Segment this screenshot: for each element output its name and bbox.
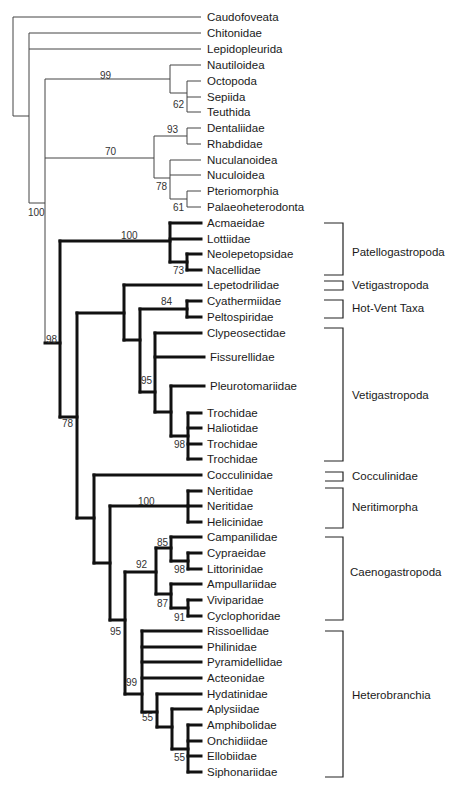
taxon-label: Octopoda bbox=[207, 75, 257, 87]
taxon-label: Philinidae bbox=[207, 641, 257, 653]
taxon-label: Peltospiridae bbox=[207, 311, 273, 323]
group-brackets bbox=[324, 223, 343, 777]
support-value: 95 bbox=[141, 375, 153, 386]
taxon-label: Cocculinidae bbox=[207, 469, 273, 481]
support-value: 100 bbox=[121, 230, 138, 241]
support-value: 98 bbox=[46, 334, 58, 345]
taxon-label: Rhabdidae bbox=[207, 138, 263, 150]
taxon-label: Amphibolidae bbox=[207, 719, 277, 731]
group-label-heterobranchia: Heterobranchia bbox=[352, 689, 431, 701]
taxon-label: Chitonidae bbox=[207, 27, 262, 39]
support-value: 93 bbox=[167, 124, 179, 135]
taxon-label: Pleurotomariidae bbox=[210, 380, 297, 392]
taxon-label: Pyramidellidae bbox=[207, 656, 282, 668]
taxon-label: Campanilidae bbox=[207, 531, 277, 543]
support-value: 78 bbox=[62, 418, 74, 429]
taxon-label: Caudofoveata bbox=[207, 11, 279, 23]
taxon-label: Nacellidae bbox=[207, 264, 261, 276]
support-value: 99 bbox=[126, 677, 138, 688]
taxon-label: Helicinidae bbox=[207, 516, 263, 528]
group-label-neritimorpha: Neritimorpha bbox=[352, 501, 418, 513]
taxon-label: Littorinidae bbox=[207, 563, 263, 575]
support-value: 99 bbox=[100, 70, 112, 81]
support-value: 91 bbox=[174, 612, 186, 623]
support-value: 55 bbox=[142, 712, 154, 723]
support-values: 99 62 93 70 78 61 100 100 73 98 84 95 78… bbox=[28, 70, 186, 763]
support-value: 98 bbox=[174, 439, 186, 450]
phylogenetic-tree: Caudofoveata Chitonidae Lepidopleurida N… bbox=[0, 0, 451, 791]
taxon-label: Nuculanoidea bbox=[207, 154, 278, 166]
taxon-label: Rissoellidae bbox=[207, 625, 269, 637]
taxon-label: Hydatinidae bbox=[207, 688, 268, 700]
taxon-label: Haliotidae bbox=[207, 422, 258, 434]
support-value: 98 bbox=[174, 564, 186, 575]
taxon-label: Acmaeidae bbox=[207, 217, 265, 229]
group-label-patellogastropoda: Patellogastropoda bbox=[352, 246, 445, 258]
group-label-cocculinidae: Cocculinidae bbox=[352, 470, 418, 482]
taxon-label: Neritidae bbox=[207, 500, 253, 512]
taxon-label: Onchidiidae bbox=[207, 735, 268, 747]
taxon-label: Palaeoheterodonta bbox=[207, 201, 305, 213]
taxon-label: Pteriomorphia bbox=[207, 185, 279, 197]
taxon-label: Lepetodrilidae bbox=[207, 279, 279, 291]
support-value: 87 bbox=[157, 598, 169, 609]
support-value: 78 bbox=[156, 181, 168, 192]
taxon-label: Ellobiidae bbox=[207, 750, 257, 762]
taxon-label: Neolepetopsidae bbox=[207, 248, 293, 260]
support-value: 92 bbox=[136, 559, 148, 570]
support-value: 85 bbox=[157, 537, 169, 548]
group-labels: Patellogastropoda Vetigastropoda Hot-Ven… bbox=[350, 246, 445, 701]
gastropod-branches bbox=[45, 223, 204, 772]
support-value: 84 bbox=[161, 296, 173, 307]
support-value: 100 bbox=[138, 496, 155, 507]
taxon-label: Trochidae bbox=[207, 453, 258, 465]
taxon-label: Acteonidae bbox=[207, 672, 265, 684]
taxon-label: Lepidopleurida bbox=[207, 43, 283, 55]
taxon-label: Sepiida bbox=[207, 91, 246, 103]
support-value: 55 bbox=[174, 752, 186, 763]
taxon-label: Cyathermiidae bbox=[207, 295, 281, 307]
taxon-label: Cypraeidae bbox=[207, 547, 266, 559]
taxon-label: Ampullariidae bbox=[207, 578, 277, 590]
group-label-vetigastropoda: Vetigastropoda bbox=[352, 389, 429, 401]
outgroup-branches bbox=[13, 17, 201, 343]
taxon-labels: Caudofoveata Chitonidae Lepidopleurida N… bbox=[207, 11, 305, 778]
support-value: 95 bbox=[110, 626, 122, 637]
taxon-label: Clypeosectidae bbox=[207, 327, 286, 339]
taxon-label: Dentaliidae bbox=[207, 122, 265, 134]
taxon-label: Nautiloidea bbox=[207, 59, 265, 71]
taxon-label: Trochidae bbox=[207, 438, 258, 450]
taxon-label: Lottiidae bbox=[207, 233, 250, 245]
taxon-label: Nuculoidea bbox=[207, 169, 265, 181]
taxon-label: Teuthida bbox=[207, 106, 251, 118]
support-value: 61 bbox=[173, 202, 185, 213]
support-value: 62 bbox=[173, 99, 185, 110]
taxon-label: Neritidae bbox=[207, 485, 253, 497]
taxon-label: Fissurellidae bbox=[210, 351, 275, 363]
support-value: 73 bbox=[173, 265, 185, 276]
support-value: 70 bbox=[105, 146, 117, 157]
support-value: 100 bbox=[28, 207, 45, 218]
taxon-label: Siphonariidae bbox=[207, 766, 277, 778]
taxon-label: Viviparidae bbox=[207, 594, 264, 606]
group-label-caenogastropoda: Caenogastropoda bbox=[350, 566, 442, 578]
group-label-vetigastropoda: Vetigastropoda bbox=[352, 279, 429, 291]
group-label-hot-vent-taxa: Hot-Vent Taxa bbox=[352, 302, 425, 314]
taxon-label: Cyclophoridae bbox=[207, 610, 281, 622]
taxon-label: Aplysiidae bbox=[207, 703, 259, 715]
taxon-label: Trochidae bbox=[207, 407, 258, 419]
